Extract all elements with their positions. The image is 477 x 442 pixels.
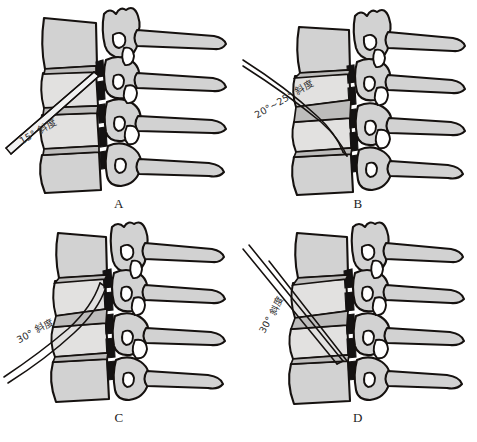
- foramen-5: [365, 121, 376, 135]
- vertebral-body-4: [292, 154, 353, 195]
- foramen-7: [115, 159, 126, 173]
- foramen-4: [375, 87, 388, 105]
- vertebral-body-1: [42, 18, 97, 69]
- panel-caption-c: C: [0, 410, 238, 426]
- foramen-1: [362, 245, 375, 260]
- transverse-process-4: [386, 371, 463, 389]
- transverse-process-4: [137, 159, 225, 177]
- transverse-process-1: [135, 30, 227, 49]
- foramen-4: [373, 297, 386, 315]
- panel-caption-b: B: [239, 196, 477, 212]
- panel-a: 15° 斜度 A: [0, 0, 238, 221]
- transverse-process-2: [384, 285, 465, 303]
- transverse-process-4: [145, 371, 224, 389]
- transverse-process-3: [144, 328, 226, 345]
- transverse-process-2: [135, 73, 227, 91]
- foramen-3: [121, 287, 132, 301]
- foramen-5: [363, 331, 374, 345]
- foramen-3: [364, 77, 375, 91]
- figure-sheet: 15° 斜度 A: [0, 0, 477, 442]
- panel-caption-a: A: [0, 196, 238, 212]
- foramen-7: [366, 163, 377, 177]
- foramen-1: [121, 245, 134, 260]
- panel-a-illustration: [0, 0, 238, 200]
- panel-c: 30° 斜度 C: [0, 221, 238, 442]
- foramen-2: [130, 261, 142, 278]
- transverse-process-1: [386, 32, 466, 51]
- foramen-2: [122, 48, 134, 65]
- panel-b: 20°~25° 斜度 B: [239, 0, 477, 221]
- transverse-process-3: [387, 118, 466, 135]
- transverse-process-3: [136, 116, 227, 133]
- transverse-process-4: [388, 161, 464, 179]
- transverse-process-3: [385, 328, 465, 345]
- panel-d: 30° 斜度 D: [239, 221, 477, 442]
- foramen-3: [362, 287, 373, 301]
- vertebral-body-1: [295, 233, 348, 278]
- foramen-5: [122, 331, 133, 345]
- foramen-7: [123, 373, 134, 387]
- vertebral-body-4: [289, 361, 350, 404]
- foramen-1: [364, 35, 377, 50]
- transverse-process-2: [143, 285, 226, 303]
- foramen-7: [364, 373, 375, 387]
- transverse-process-2: [386, 75, 466, 93]
- foramen-5: [114, 117, 125, 131]
- transverse-process-1: [384, 243, 464, 262]
- foramen-4: [124, 85, 137, 103]
- foramen-2: [373, 50, 385, 67]
- foramen-1: [113, 33, 126, 48]
- vertebral-body-4: [51, 359, 109, 402]
- vertebral-body-1: [297, 27, 350, 73]
- foramen-4: [132, 297, 145, 315]
- vertebral-body-4: [40, 152, 101, 193]
- foramen-2: [371, 261, 383, 278]
- foramen-3: [113, 75, 124, 89]
- panel-caption-d: D: [239, 410, 477, 426]
- transverse-process-1: [143, 243, 225, 262]
- vertebral-body-1: [56, 233, 107, 278]
